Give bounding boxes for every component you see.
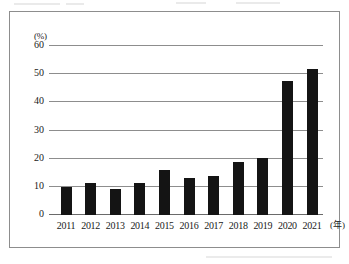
y-axis-tick-label: 50 [34, 68, 44, 78]
bar [282, 81, 293, 215]
x-axis-tick-label: 2014 [130, 220, 149, 231]
y-axis-tick-label: 20 [34, 153, 44, 163]
scan-artifact [206, 256, 332, 258]
x-axis-tick-label: 2021 [303, 220, 322, 231]
x-axis-tick-label: 2013 [106, 220, 125, 231]
bar [257, 158, 268, 215]
x-axis-tick-label: 2019 [253, 220, 272, 231]
bar [61, 187, 72, 215]
x-axis-tick-label: 2011 [57, 220, 75, 231]
x-axis-tick-label: 2020 [278, 220, 297, 231]
bar [208, 176, 219, 215]
bar [134, 183, 145, 215]
scan-artifact [14, 3, 60, 5]
y-axis-tick-label: 30 [34, 125, 44, 135]
chart-frame: (%) 0102030405060 2011201220132014201520… [9, 11, 340, 248]
plot-area: 0102030405060 20112012201320142015201620… [49, 46, 323, 215]
bar-chart: (%) 0102030405060 2011201220132014201520… [10, 12, 339, 247]
bar [85, 183, 96, 215]
y-axis-tick-label: 0 [39, 209, 44, 219]
x-axis-tick-label: 2018 [229, 220, 248, 231]
bar [233, 162, 244, 215]
bar [184, 178, 195, 215]
y-axis-tick-label: 60 [34, 40, 44, 50]
bar [159, 170, 170, 215]
scan-artifact [236, 2, 280, 4]
y-axis-tick-label: 40 [34, 96, 44, 106]
bar [307, 69, 318, 215]
x-axis-tick-label: 2017 [204, 220, 223, 231]
bar [110, 189, 121, 215]
y-axis-tick-label: 10 [34, 181, 44, 191]
scan-artifact [176, 2, 206, 4]
x-axis-tick-label: 2016 [180, 220, 199, 231]
bars-layer [49, 46, 323, 215]
x-axis-tick-label: 2015 [155, 220, 174, 231]
x-axis-unit-label: (年) [330, 220, 345, 231]
scan-artifact [66, 3, 84, 5]
x-axis-tick-label: 2012 [81, 220, 100, 231]
